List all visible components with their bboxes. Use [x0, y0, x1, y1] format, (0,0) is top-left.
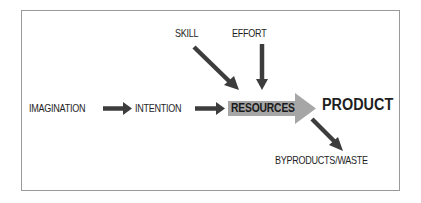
- arrow-imagination-intention: [103, 102, 132, 115]
- arrow-effort-resources: [256, 44, 268, 90]
- node-byproducts-waste: BYPRODUCTS/WASTE: [275, 154, 368, 166]
- node-resources-box: RESOURCES: [228, 101, 296, 116]
- node-intention: INTENTION: [135, 102, 181, 114]
- node-resources: RESOURCES: [231, 102, 295, 115]
- arrow-intention-resources: [195, 102, 225, 115]
- node-skill: SKILL: [175, 27, 198, 39]
- node-effort: EFFORT: [232, 27, 266, 39]
- arrow-skill-resources: [194, 47, 239, 90]
- node-imagination: IMAGINATION: [29, 102, 85, 114]
- node-product: PRODUCT: [322, 96, 393, 114]
- arrow-resources-byproducts: [312, 119, 343, 151]
